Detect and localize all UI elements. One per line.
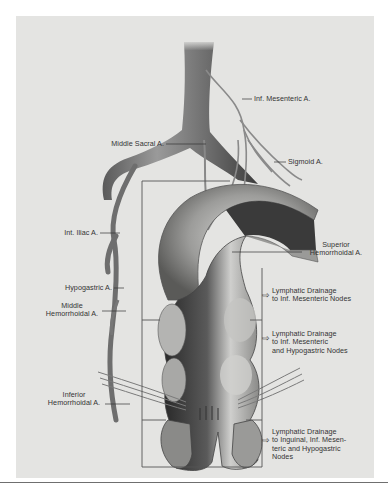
label-inf-mesenteric-artery: Inf. Mesenteric A.: [254, 95, 310, 103]
drainage-note-upper: ⇨ Lymphatic Drainage to Inf. Mesenteric …: [262, 287, 351, 304]
drainage-note-middle: ⇨ Lymphatic Drainage to Inf. Mesenteric …: [262, 330, 348, 355]
label-superior-hemorrhoidal-artery: Superior Hemorrhoidal A.: [296, 241, 376, 258]
arrow-icon: ⇨: [262, 334, 270, 342]
label-middle-hemorrhoidal-artery: Middle Hemorrhoidal A.: [42, 302, 102, 319]
label-int-iliac-artery: Int. Iliac A.: [38, 229, 98, 237]
arrow-icon: ⇨: [262, 436, 270, 444]
label-inferior-hemorrhoidal-artery: Inferior Hemorrhoidal A.: [44, 391, 104, 408]
label-hypogastric-artery: Hypogastric A.: [40, 284, 112, 292]
drainage-note-lower: ⇨ Lymphatic Drainage to Inguinal, Inf. M…: [262, 428, 346, 462]
caption-divider: [0, 482, 388, 483]
label-middle-sacral-artery: Middle Sacral A.: [84, 140, 164, 148]
label-sigmoid-artery: Sigmoid A.: [288, 158, 323, 166]
arrow-icon: ⇨: [262, 291, 270, 299]
